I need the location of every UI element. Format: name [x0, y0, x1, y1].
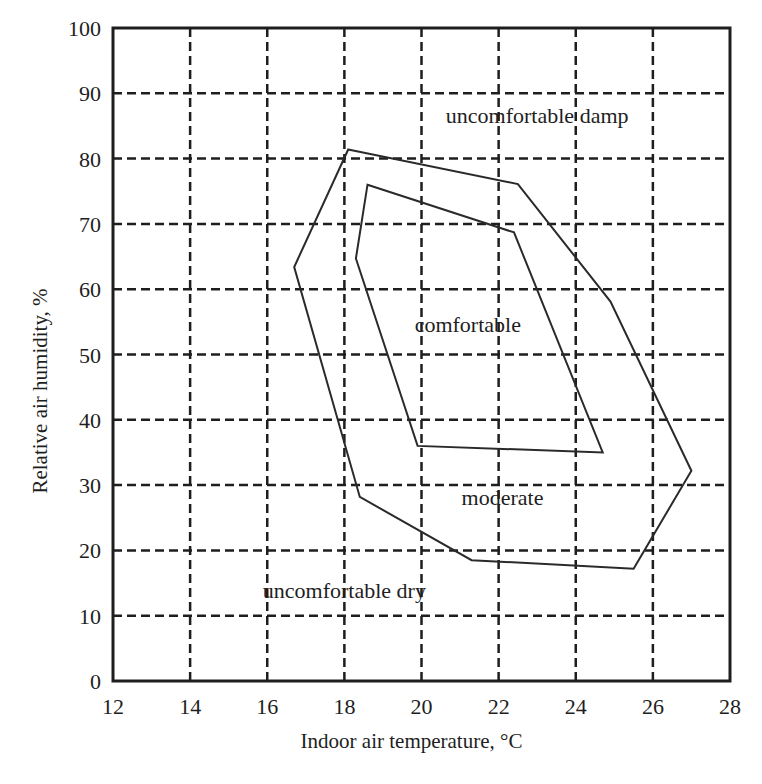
y-tick-label: 60 [79, 277, 101, 302]
y-tick-label: 30 [79, 473, 101, 498]
y-axis-title: Relative air humidity, % [28, 288, 52, 493]
x-tick-label: 26 [642, 694, 664, 719]
region-label: uncomfortable dry [263, 578, 426, 603]
region-label: comfortable [415, 312, 521, 337]
x-tick-label: 18 [333, 694, 355, 719]
y-tick-label: 90 [79, 81, 101, 106]
comfort-zone-chart: 0102030405060708090100 12141618202224262… [0, 0, 762, 784]
x-tick-label: 24 [565, 694, 587, 719]
y-tick-label: 40 [79, 408, 101, 433]
y-tick-label: 0 [90, 669, 101, 694]
x-tick-label: 28 [719, 694, 741, 719]
x-tick-label: 20 [411, 694, 433, 719]
y-tick-label: 50 [79, 343, 101, 368]
y-tick-label: 70 [79, 212, 101, 237]
x-tick-label: 14 [179, 694, 201, 719]
x-tick-label: 22 [488, 694, 510, 719]
region-labels: uncomfortable dampcomfortablemoderateunc… [263, 103, 629, 603]
x-axis-title: Indoor air temperature, °C [301, 729, 523, 753]
y-tick-label: 100 [68, 16, 101, 41]
x-tick-label: 16 [256, 694, 278, 719]
region-label: moderate [462, 485, 544, 510]
y-axis-tick-labels: 0102030405060708090100 [68, 16, 101, 694]
y-tick-label: 80 [79, 147, 101, 172]
y-tick-label: 10 [79, 604, 101, 629]
x-axis-tick-labels: 121416182022242628 [102, 694, 741, 719]
region-label: uncomfortable damp [446, 103, 629, 128]
x-tick-label: 12 [102, 694, 124, 719]
y-tick-label: 20 [79, 538, 101, 563]
